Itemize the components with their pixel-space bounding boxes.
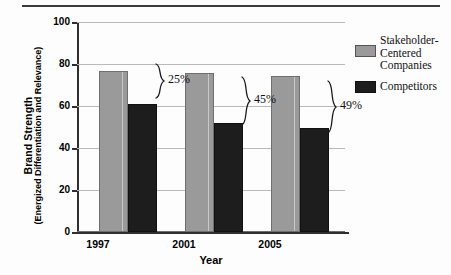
- annotation-label-2001: 45%: [254, 92, 276, 107]
- x-tick-label-1997: 1997: [68, 238, 128, 250]
- y-tick-label-0: 0: [24, 226, 70, 237]
- x-axis-title: Year: [77, 254, 345, 266]
- annotation-brace-2005: [327, 80, 339, 134]
- gridline-80: [77, 64, 345, 65]
- bar-2001-stakeholder-centered: [185, 73, 214, 232]
- bar-2001-competitors: [214, 123, 243, 232]
- annotation-brace-2001: [241, 76, 253, 126]
- legend-swatch-black: [355, 81, 376, 93]
- legend-label-competitors: Competitors: [380, 80, 451, 93]
- legend-item-competitors: Competitors: [355, 80, 451, 96]
- y-tick-label-60: 60: [24, 100, 70, 111]
- bar-1997-competitors: [128, 104, 157, 232]
- y-tick-label-80: 80: [24, 58, 70, 69]
- bar-2005-competitors: [300, 128, 329, 232]
- chart-legend: Stakeholder- Centered Companies Competit…: [355, 34, 451, 102]
- y-axis-tick-labels: 100 80 60 40 20 0: [20, 0, 70, 275]
- bar-1997-stakeholder-centered: [99, 71, 128, 232]
- annotation-label-1997: 25%: [168, 72, 190, 87]
- x-tick-label-2001: 2001: [154, 238, 214, 250]
- annotation-brace-1997: [155, 63, 167, 99]
- gridline-100: [77, 22, 345, 23]
- y-tick-label-20: 20: [24, 184, 70, 195]
- bar-chart-figure: Brand Strength (Energized Differentiatio…: [0, 0, 451, 275]
- legend-label-stakeholder-centered-companies: Stakeholder- Centered Companies: [380, 34, 451, 72]
- y-tick-label-40: 40: [24, 142, 70, 153]
- legend-item-stakeholder-centered-companies: Stakeholder- Centered Companies: [355, 34, 451, 74]
- legend-swatch-light-gray: [355, 45, 376, 57]
- y-tick-label-100: 100: [24, 16, 70, 27]
- x-tick-label-2005: 2005: [240, 238, 300, 250]
- plot-area: [77, 22, 345, 232]
- top-divider-rule: [22, 5, 440, 7]
- x-axis-line: [77, 232, 349, 234]
